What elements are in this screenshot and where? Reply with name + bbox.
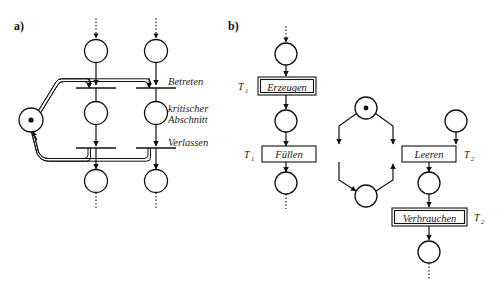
transition-verbrauchen-tag: T (474, 212, 481, 223)
figure-root: a) (0, 0, 504, 293)
place-right-exit (145, 170, 168, 193)
place-consumer-item (418, 172, 440, 194)
place-right-entry (145, 40, 168, 63)
arc-left-leave-to-mutex-a (34, 132, 89, 159)
label-abschnitt: Abschnitt (167, 114, 209, 125)
arc-buffer-full-to-leeren (376, 164, 393, 191)
place-right-critical (145, 102, 168, 125)
arc-left-leave-to-mutex-b (32, 132, 91, 161)
arc-mutex-to-left-enter-a (41, 82, 89, 114)
label-kritischer: kritischer (168, 103, 209, 114)
transition-erzeugen-tag-sub: 1 (245, 87, 248, 94)
transition-leeren-label: Leeren (414, 149, 444, 160)
transition-verbrauchen-label: Verbrauchen (403, 213, 457, 224)
panel-b-key: b) (228, 19, 239, 33)
transition-erzeugen-tag: T (238, 81, 245, 92)
transition-fuellen-tag-sub: 1 (251, 155, 254, 162)
place-left-critical (85, 102, 108, 125)
place-left-exit (85, 170, 108, 193)
token-buffer-free (364, 106, 369, 111)
place-producer-ready (275, 43, 297, 65)
place-left-entry (85, 40, 108, 63)
panel-a-key: a) (14, 19, 24, 33)
place-buffer-full (355, 185, 377, 207)
transition-leeren-tag-sub: 2 (471, 155, 475, 162)
petri-net-figure: a) (0, 0, 504, 293)
arc-buffer-free-to-leeren (376, 114, 394, 145)
label-betreten: Betreten (168, 76, 203, 87)
place-consumer-done (418, 241, 440, 263)
transition-verbrauchen-tag-sub: 2 (481, 218, 485, 225)
place-consumer-ready (445, 110, 467, 132)
place-producer-item (275, 110, 297, 132)
transition-fuellen-tag: T (244, 149, 251, 160)
arc-buffer-free-to-fuellen (339, 114, 357, 145)
transition-fuellen-label: Füllen (274, 149, 302, 160)
token-mutex (28, 117, 33, 122)
label-verlassen: Verlassen (168, 137, 208, 148)
transition-leeren-tag: T (464, 149, 471, 160)
transition-erzeugen-label: Erzeugen (266, 82, 307, 93)
arc-mutex-to-left-enter-b (39, 79, 91, 111)
place-producer-done (275, 172, 297, 194)
arc-fuellen-to-buffer-full (339, 162, 356, 191)
